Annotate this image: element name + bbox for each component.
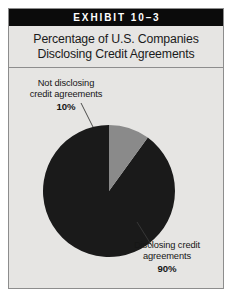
exhibit-header-bar: EXHIBIT 10–3 <box>9 9 223 26</box>
exhibit-panel: EXHIBIT 10–3 Percentage of U.S. Companie… <box>8 8 224 289</box>
callout-disclosing: Disclosing credit agreements 90% <box>117 240 217 274</box>
exhibit-title-line-2: Disclosing Credit Agreements <box>37 47 194 63</box>
callout-not-disclosing-line-2: credit agreements <box>14 89 118 100</box>
callout-disclosing-line-1: Disclosing credit <box>117 240 217 251</box>
pie-chart: Not disclosing credit agreements 10% Dis… <box>9 68 223 288</box>
callout-disclosing-percent: 90% <box>117 263 217 274</box>
callout-not-disclosing-line-1: Not disclosing <box>14 78 118 89</box>
callout-not-disclosing: Not disclosing credit agreements 10% <box>14 78 118 112</box>
callout-not-disclosing-percent: 10% <box>14 101 118 112</box>
exhibit-title-line-1: Percentage of U.S. Companies <box>33 32 198 48</box>
exhibit-number-label: EXHIBIT 10–3 <box>71 13 160 23</box>
exhibit-figure: EXHIBIT 10–3 Percentage of U.S. Companie… <box>0 0 234 301</box>
exhibit-title: Percentage of U.S. Companies Disclosing … <box>9 26 223 67</box>
callout-disclosing-line-2: agreements <box>117 251 217 262</box>
